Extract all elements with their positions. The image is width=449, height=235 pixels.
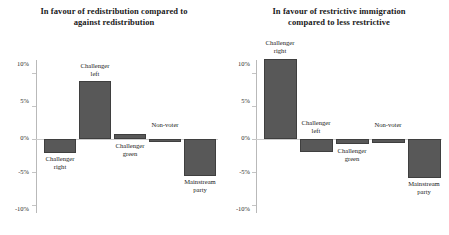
y-tick-mark-10	[252, 73, 256, 74]
bar-label-mainstream-party: Mainstream party	[176, 178, 224, 193]
y-tick-mark-10	[32, 73, 36, 74]
bar-label-challenger-right: Challenger right	[36, 155, 84, 170]
bar-label-mainstream-party: Mainstream party	[400, 180, 448, 195]
y-tick-mark-5	[32, 106, 36, 107]
y-tick-label-0: 0%	[3, 134, 29, 141]
y-tick-label-5: 5%	[3, 97, 29, 104]
bar-mainstream-party[interactable]	[184, 139, 216, 176]
bar-non-voter[interactable]	[149, 139, 181, 142]
plot-area-immigration: 10% 5% 0% -5% -10% Challenger right Chal…	[225, 0, 449, 235]
bar-challenger-left[interactable]	[79, 81, 111, 139]
y-tick-mark-neg5	[32, 172, 36, 173]
y-tick-label-neg10: -10%	[3, 205, 29, 212]
chart-panel-immigration: In favour of restrictive immigration com…	[225, 0, 449, 235]
bar-non-voter[interactable]	[372, 139, 405, 143]
y-tick-label-0: 0%	[224, 134, 250, 141]
y-tick-mark-0	[32, 139, 36, 140]
bar-label-challenger-right: Challenger right	[256, 39, 304, 54]
bar-label-non-voter: Non-voter	[141, 121, 189, 129]
y-tick-mark-neg5	[252, 172, 256, 173]
y-tick-label-neg5: -5%	[224, 168, 250, 175]
chart-page: In favour of redistribution compared to …	[0, 0, 449, 235]
y-tick-label-5: 5%	[224, 97, 250, 104]
y-tick-mark-5	[252, 106, 256, 107]
bar-label-non-voter: Non-voter	[364, 121, 412, 129]
bar-challenger-right[interactable]	[44, 139, 76, 153]
y-tick-label-10: 10%	[3, 60, 29, 67]
bar-label-challenger-left: Challenger left	[292, 119, 340, 134]
y-tick-label-neg10: -10%	[224, 205, 250, 212]
y-axis-line	[36, 60, 37, 213]
bar-label-challenger-green: Challenger green	[106, 142, 154, 157]
y-tick-mark-neg10	[32, 205, 36, 206]
y-axis-line	[256, 60, 257, 213]
y-tick-label-neg5: -5%	[3, 168, 29, 175]
y-tick-mark-neg10	[252, 205, 256, 206]
chart-panel-redistribution: In favour of redistribution compared to …	[0, 0, 224, 235]
bar-challenger-green[interactable]	[114, 134, 146, 139]
y-tick-mark-0	[252, 139, 256, 140]
bar-mainstream-party[interactable]	[408, 139, 441, 178]
bar-label-challenger-left: Challenger left	[71, 62, 119, 77]
plot-area-redistribution: 10% 5% 0% -5% -10% Challenger right Chal…	[0, 0, 224, 235]
y-tick-label-10: 10%	[224, 60, 250, 67]
bar-challenger-green[interactable]	[336, 139, 369, 144]
bar-label-challenger-green: Challenger green	[328, 147, 376, 162]
